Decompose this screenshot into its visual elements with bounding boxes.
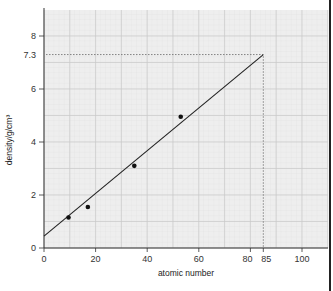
y-tick-label: 4 bbox=[31, 137, 36, 147]
data-point bbox=[178, 115, 183, 120]
y-tick-label: 2 bbox=[31, 190, 36, 200]
x-tick-label: 20 bbox=[91, 254, 101, 264]
data-point bbox=[132, 164, 137, 169]
x-tick-label: 80 bbox=[242, 254, 252, 264]
y-tick-label: 0 bbox=[31, 243, 36, 253]
data-point bbox=[66, 215, 71, 220]
x-tick-label: 0 bbox=[41, 254, 46, 264]
y-tick-label: 6 bbox=[31, 84, 36, 94]
data-point bbox=[86, 205, 91, 210]
y-tick-label: 7.3 bbox=[23, 50, 36, 60]
y-axis-label: density/g/cm³ bbox=[4, 115, 14, 166]
x-tick-label: 100 bbox=[294, 254, 309, 264]
x-tick-label: 40 bbox=[142, 254, 152, 264]
y-tick-label: 8 bbox=[31, 31, 36, 41]
plot-area bbox=[44, 10, 328, 248]
density-chart: 0204060808510002467.38 atomic number den… bbox=[0, 0, 333, 291]
x-tick-label: 60 bbox=[194, 254, 204, 264]
x-axis-label: atomic number bbox=[158, 268, 214, 278]
x-tick-label: 85 bbox=[261, 254, 271, 264]
